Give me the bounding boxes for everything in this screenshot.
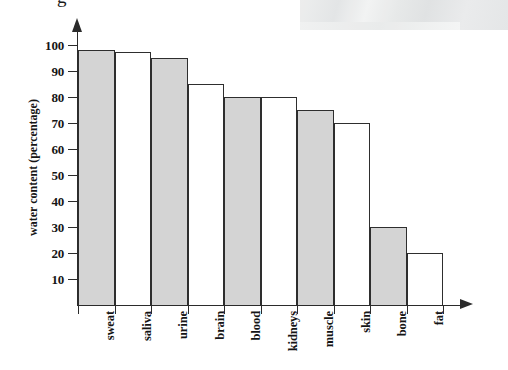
x-axis-tick [297,305,298,314]
y-axis-tick-label-text: 10 [12,272,64,288]
x-axis-tick [78,305,79,314]
x-axis-tick [407,305,408,314]
y-axis-tick-label: 50 [8,168,64,182]
bar-muscle [297,110,334,305]
y-axis-tick [68,45,77,46]
bar-brain [188,84,225,305]
x-axis-line [77,305,462,306]
x-axis-label-brain: brain [213,311,227,370]
y-axis-tick-label: 80 [8,90,64,104]
y-axis-tick-label: 30 [8,220,64,234]
x-axis-label-bone: bone [395,311,409,370]
bar-saliva [115,52,152,306]
bar-skin [334,123,371,305]
x-axis-label-fat: fat [432,311,446,370]
x-axis-label-muscle: muscle [322,311,336,370]
y-axis-tick [68,253,77,254]
y-axis-tick [68,279,77,280]
x-axis-label-skin: skin [359,311,373,370]
y-axis-tick-label-text: 30 [12,220,64,236]
y-axis-tick-label: 100 [8,38,64,52]
bar-urine [151,58,188,305]
x-axis-label-kidneys: kidneys [286,311,300,370]
x-axis-tick [115,305,116,314]
y-axis-tick [68,123,77,124]
y-axis-tick-label-text: 100 [12,38,64,54]
y-axis-tick-label: 20 [8,246,64,260]
bar-sweat [78,50,115,305]
x-axis-tick [188,305,189,314]
y-axis-tick [68,227,77,228]
x-axis-tick [261,305,262,314]
y-axis-tick [68,149,77,150]
x-axis-tick [334,305,335,314]
x-axis-label-saliva: saliva [140,311,154,370]
y-axis-tick-label: 10 [8,272,64,286]
y-axis-tick-label-text: 80 [12,90,64,106]
y-axis-tick-label: 60 [8,142,64,156]
bar-blood [224,97,261,305]
x-axis-label-sweat: sweat [103,311,117,370]
y-axis-tick-label: 90 [8,64,64,78]
x-axis-label-urine: urine [176,311,190,370]
clipped-top-glyph: g [57,0,67,6]
y-axis-tick-label-text: 20 [12,246,64,262]
y-axis-arrowhead [72,18,82,32]
x-axis-label-blood: blood [249,311,263,370]
x-axis-tick [151,305,152,314]
x-axis-tick [224,305,225,314]
y-axis-tick-label-text: 60 [12,142,64,158]
y-axis-tick-label-text: 50 [12,168,64,184]
x-axis-tick [370,305,371,314]
scan-artifact [300,0,508,30]
y-axis-tick-label: 40 [8,194,64,208]
bar-fat [407,253,444,305]
x-axis-arrowhead [460,299,473,309]
y-axis-tick-label-text: 90 [12,64,64,80]
water-content-bar-chart: g water content (percentage) 10203040506… [0,0,508,370]
y-axis-tick-label-text: 70 [12,116,64,132]
y-axis-tick [68,175,77,176]
y-axis-tick [68,97,77,98]
y-axis-tick [68,71,77,72]
bar-kidneys [261,97,298,305]
y-axis-tick [68,201,77,202]
y-axis-tick-label: 70 [8,116,64,130]
bar-bone [370,227,407,305]
x-axis-tick [443,305,444,314]
y-axis-tick-label-text: 40 [12,194,64,210]
